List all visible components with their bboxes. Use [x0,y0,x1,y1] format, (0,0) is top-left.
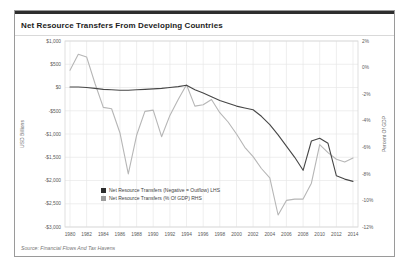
x-axis-tick-label: 2006 [281,232,292,237]
right-axis-tick-label: -12% [362,225,374,230]
x-axis-tick-label: 2012 [331,232,342,237]
x-axis-tick-label: 1988 [131,232,142,237]
x-axis-tick-label: 2010 [314,232,325,237]
source-note: Source: Financial Flows And Tax Havens [21,245,115,251]
chart-card: Net Resource Transfers From Developing C… [14,10,395,257]
legend-swatch [101,188,106,193]
x-axis-tick-label: 1992 [165,232,176,237]
left-axis-tick-label: $1,000 [46,39,61,44]
left-axis-tick-label: $0 [56,85,62,90]
right-axis-tick-label: -8% [362,172,371,177]
x-axis-tick-label: 1982 [81,232,92,237]
right-axis-tick-label: -4% [362,118,371,123]
right-axis-tick-label: -10% [362,198,374,203]
left-axis-tick-label: -$2,500 [45,201,62,206]
chart-title-bar: Net Resource Transfers From Developing C… [15,14,394,36]
page-background: Net Resource Transfers From Developing C… [0,0,409,271]
line-chart: $1,000$500$0-$500-$1,000-$1,500-$2,000-$… [15,36,394,248]
legend-swatch [101,196,106,201]
x-axis-tick-label: 2014 [348,232,359,237]
right-axis-title: Percent Of GDP [381,115,387,152]
right-axis-tick-label: 0% [362,65,370,70]
left-axis-tick-label: -$1,500 [45,155,62,160]
x-axis-tick-label: 2008 [298,232,309,237]
legend-label: Net Resource Transfers (Negative = Outfl… [109,187,221,193]
line-chart-svg: $1,000$500$0-$500-$1,000-$1,500-$2,000-$… [15,36,394,248]
x-axis-tick-label: 1986 [115,232,126,237]
x-axis-tick-label: 1990 [148,232,159,237]
x-axis-tick-label: 2004 [264,232,275,237]
right-axis-tick-label: -6% [362,145,371,150]
left-axis-tick-label: -$1,000 [45,132,62,137]
x-axis-tick-label: 1984 [98,232,109,237]
x-axis-tick-label: 1998 [214,232,225,237]
left-axis-title: USD Billions [19,120,25,148]
legend-label: Net Resource Transfers (% Of GDP) RHS [109,195,202,201]
left-axis-tick-label: $500 [50,62,61,67]
left-axis-tick-label: -$2,000 [45,178,62,183]
x-axis-tick-label: 1980 [65,232,76,237]
x-axis-tick-label: 1994 [181,232,192,237]
chart-title: Net Resource Transfers From Developing C… [21,21,223,30]
left-axis-tick-label: -$3,000 [45,225,62,230]
left-axis-tick-label: -$500 [49,109,62,114]
x-axis-tick-label: 1996 [198,232,209,237]
x-axis-tick-label: 2002 [248,232,259,237]
right-axis-tick-label: -2% [362,92,371,97]
x-axis-tick-label: 2000 [231,232,242,237]
right-axis-tick-label: 2% [362,39,370,44]
